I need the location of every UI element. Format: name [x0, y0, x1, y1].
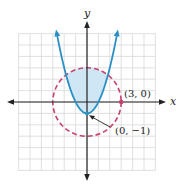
point-label-3-0: (3, 0) [124, 88, 151, 99]
y-axis-label: y [83, 7, 91, 20]
annotation-arrow-head-icon [89, 115, 95, 120]
y-axis-bottom-arrow-icon [84, 174, 90, 181]
parabola-right-arrow-icon [114, 29, 120, 36]
annotation-arrow-line [91, 117, 110, 128]
x-axis-label: x [170, 95, 176, 108]
point-label-0-neg1: (0, −1) [115, 125, 150, 136]
parabola-left-arrow-icon [54, 29, 60, 36]
graph-figure: x y (3, 0) (0, −1) [0, 0, 176, 190]
y-axis-top-arrow-icon [84, 21, 90, 28]
x-axis-right-arrow-icon [159, 99, 166, 105]
point-0-neg1 [85, 111, 89, 115]
x-axis-left-arrow-icon [7, 99, 14, 105]
point-3-0 [119, 100, 124, 105]
